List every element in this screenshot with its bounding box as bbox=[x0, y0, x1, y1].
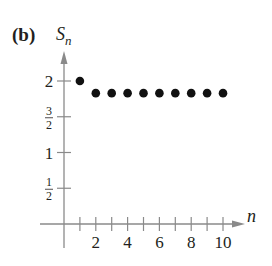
x-tick-label: 8 bbox=[187, 233, 196, 252]
x-tick-label: 10 bbox=[215, 233, 232, 252]
y-axis-label: Sn bbox=[56, 24, 72, 48]
x-tick-label: 6 bbox=[155, 233, 164, 252]
x-tick-label: 2 bbox=[92, 233, 101, 252]
data-point bbox=[219, 89, 228, 98]
panel-label: (b) bbox=[12, 24, 35, 46]
y-tick-numerator: 3 bbox=[46, 104, 52, 118]
data-point bbox=[187, 89, 196, 98]
data-points bbox=[76, 77, 228, 98]
y-tick-numerator: 1 bbox=[46, 175, 52, 189]
data-point bbox=[171, 89, 180, 98]
data-point bbox=[107, 89, 116, 98]
data-point bbox=[203, 89, 212, 98]
axes bbox=[40, 51, 245, 248]
data-point bbox=[92, 89, 101, 98]
x-axis-arrow-icon bbox=[232, 221, 245, 228]
data-point bbox=[123, 89, 132, 98]
data-point bbox=[76, 77, 85, 86]
y-tick-label: 1 bbox=[45, 144, 54, 163]
y-axis-arrow-icon bbox=[61, 51, 68, 64]
sequence-partial-sums-plot: (b) Sn 232112 246810 n bbox=[0, 0, 272, 266]
data-point bbox=[139, 89, 148, 98]
y-tick-denominator: 2 bbox=[46, 118, 52, 132]
x-axis-label: n bbox=[247, 206, 256, 226]
y-tick-labels: 232112 bbox=[45, 72, 54, 203]
data-point bbox=[155, 89, 164, 98]
x-tick-label: 4 bbox=[123, 233, 132, 252]
y-tick-label: 2 bbox=[45, 72, 54, 91]
x-tick-labels: 246810 bbox=[92, 233, 232, 252]
y-tick-denominator: 2 bbox=[46, 189, 52, 203]
